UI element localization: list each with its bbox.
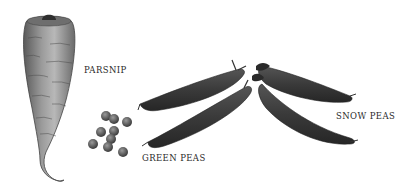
green-peas-label: GREEN PEAS (142, 154, 206, 163)
vegetable-illustration: PARSNIP GREEN PEAS SNOW PEAS (0, 0, 396, 190)
snow-pea-pods (252, 63, 358, 144)
loose-peas (88, 111, 132, 157)
snow-peas-label: SNOW PEAS (336, 112, 395, 121)
parsnip-label: PARSNIP (84, 66, 127, 75)
parsnip-drawing (24, 15, 75, 182)
green-pea-pods (138, 60, 252, 148)
